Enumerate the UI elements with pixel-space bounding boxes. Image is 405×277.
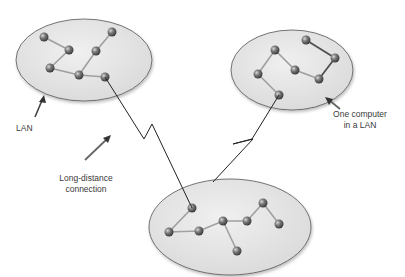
- computer-node: [92, 47, 101, 56]
- computer-node: [331, 54, 340, 63]
- lan-right: [231, 30, 353, 110]
- long-distance-label-line2: connection: [46, 184, 126, 195]
- computer-node: [219, 217, 228, 226]
- computer-node: [75, 71, 84, 80]
- computer-node: [108, 28, 117, 37]
- one-computer-label-line1: One computer: [322, 109, 398, 120]
- one-computer-label: One computer in a LAN: [322, 109, 398, 131]
- network-diagram: [0, 0, 405, 277]
- computer-node: [291, 66, 300, 75]
- computer-node: [233, 247, 242, 256]
- computer-node: [243, 217, 252, 226]
- lan-left-ellipse: [16, 19, 152, 101]
- computer-node: [302, 36, 311, 45]
- arrow-icon: [39, 95, 46, 103]
- computer-node: [195, 227, 204, 236]
- lan-left: [16, 19, 152, 101]
- wan-line-right: [213, 95, 279, 182]
- computer-node: [46, 64, 55, 73]
- one-computer-label-line2: in a LAN: [322, 120, 398, 131]
- long-distance-label: Long-distance connection: [46, 173, 126, 195]
- computer-node: [271, 46, 280, 55]
- computer-node: [315, 75, 324, 84]
- computer-node: [275, 220, 284, 229]
- lan-bottom: [149, 179, 311, 275]
- long-distance-label-line1: Long-distance: [46, 173, 126, 184]
- computer-node: [65, 46, 74, 55]
- computer-node: [165, 228, 174, 237]
- computer-node: [40, 33, 49, 42]
- computer-node: [259, 199, 268, 208]
- lan-label: LAN: [16, 123, 33, 134]
- computer-node: [254, 70, 263, 79]
